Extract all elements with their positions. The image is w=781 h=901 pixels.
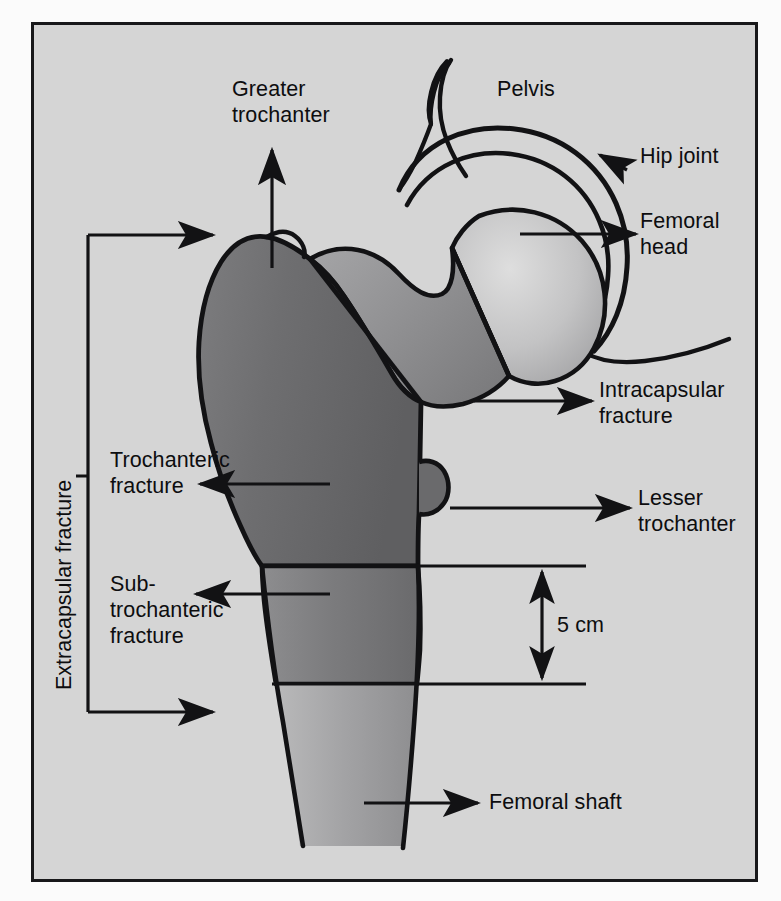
label-extracapsular-fracture: Extracapsular fracture: [52, 480, 76, 690]
label-intracapsular-fracture: Intracapsular fracture: [599, 377, 725, 429]
label-pelvis: Pelvis: [497, 76, 555, 102]
label-greater-trochanter: Greater trochanter: [232, 76, 330, 128]
label-trochanteric-fracture: Trochanteric fracture: [110, 447, 230, 499]
figure-page: Greater trochanter Pelvis Hip joint Femo…: [0, 0, 781, 901]
label-femoral-shaft: Femoral shaft: [489, 789, 622, 815]
label-lesser-trochanter: Lesser trochanter: [638, 485, 736, 537]
label-measurement-5cm: 5 cm: [557, 612, 604, 638]
label-femoral-head: Femoral head: [640, 208, 720, 260]
label-hip-joint: Hip joint: [640, 143, 719, 169]
label-subtrochanteric-fracture: Sub- trochanteric fracture: [110, 571, 224, 649]
